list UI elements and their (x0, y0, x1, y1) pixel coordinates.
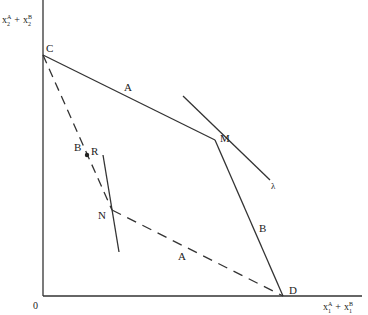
segment-md-label: B (259, 222, 266, 234)
price-line-label: λ (271, 181, 276, 191)
segment-nd-label: A (178, 250, 186, 262)
segment-n-d-dashed (112, 210, 283, 296)
segment-cn-label: B (74, 141, 81, 153)
point-r-dot (85, 153, 89, 157)
point-d-label: D (289, 284, 297, 296)
svg-text:x1A+x1B: x1A+x1B (323, 301, 353, 314)
segment-cm-label: A (124, 81, 132, 93)
segment-m-d (215, 140, 283, 296)
origin-label: 0 (33, 300, 38, 311)
edgeworth-production-diagram: C M D N R A B B A λ 0 x2A+x2B x1A+x1B (0, 0, 368, 315)
point-n-label: N (98, 209, 106, 221)
point-c-label: C (46, 42, 53, 54)
point-m-label: M (220, 132, 230, 144)
x-axis-label: x1A+x1B (323, 301, 353, 314)
y-axis-label: x2A+x2B (2, 14, 32, 27)
tangent-line-n (103, 155, 119, 252)
segment-c-m (43, 55, 215, 140)
svg-text:x2A+x2B: x2A+x2B (2, 14, 32, 27)
segment-c-n-dashed (43, 55, 112, 210)
point-r-label: R (91, 145, 99, 157)
